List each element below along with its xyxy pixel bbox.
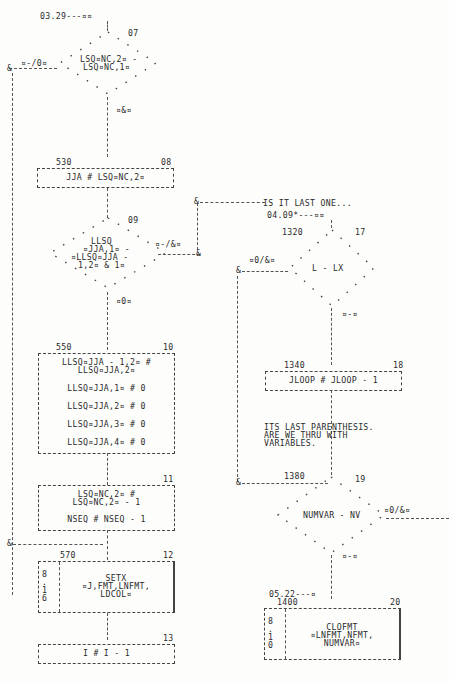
subroutine-box-12: 8 . 1 6 SETX ¤J,FMT,LNFMT, LDCOL¤ xyxy=(38,561,175,613)
node-number: 07 xyxy=(128,29,138,38)
process-line: LSQ¤NC,2¤ - 1 xyxy=(39,498,174,507)
decision-09: 09 LLSQ ¤JJA,1¤ - ¤LLSQ¤JJA - 1,2¤ & 1¤ xyxy=(48,216,168,290)
node-number: 17 xyxy=(355,228,365,237)
flow-line xyxy=(107,453,108,485)
decision-line: 1,2¤ & 1¤ xyxy=(78,261,125,270)
process-line: LLSQ¤JJA,4¤ # 0 xyxy=(39,438,174,447)
entry-connector-0409: 04.09*---¤¤ xyxy=(267,211,325,220)
branch-label: ¤-/&¤ xyxy=(155,240,181,249)
node-label: 1340 xyxy=(284,361,305,370)
node-label: 570 xyxy=(60,551,76,560)
flow-line xyxy=(13,544,103,545)
process-box-10: LLSQ¤JJA - 1,2¤ # LLSQ¤JJA,2¤ LLSQ¤JJA,1… xyxy=(38,353,175,454)
connector-amp: & xyxy=(236,266,241,275)
branch-label: ¤0¤ xyxy=(116,297,132,306)
node-number: 11 xyxy=(163,475,173,484)
branch-label: ¤-¤ xyxy=(342,552,358,561)
process-line: JJA # LSQ¤NC,2¤ xyxy=(38,173,173,182)
flow-line xyxy=(9,68,57,69)
process-line: LLSQ¤JJA,1¤ # 0 xyxy=(39,384,174,393)
flow-line xyxy=(237,276,238,482)
entry-connector-0329: 03.29---¤¤ xyxy=(40,12,92,21)
process-box-11: LSQ¤NC,2¤ # LSQ¤NC,2¤ - 1 NSEQ # NSEQ - … xyxy=(38,485,175,531)
node-number: 18 xyxy=(393,361,403,370)
process-box-18: JLOOP # JLOOP - 1 xyxy=(265,371,402,391)
comment-is-it-last-one: IS IT LAST ONE... xyxy=(263,199,352,208)
decision-line: L - LX xyxy=(312,264,343,273)
subroutine-box-20: 8 . 1 0 CLOFMT ¤LNFMT,NFMT, NUMVAR¤ xyxy=(264,608,401,660)
comment-last-parenthesis: VARIABLES. xyxy=(264,439,316,448)
side-ref: 0 xyxy=(268,641,273,650)
process-box-13: I # I - 1 xyxy=(38,644,175,664)
flow-line xyxy=(242,271,288,272)
decision-line: LSQ¤NC,1¤ xyxy=(83,63,130,72)
connector-amp: & xyxy=(236,478,241,487)
flow-line xyxy=(197,203,198,250)
branch-label: ¤0/&¤ xyxy=(384,506,410,515)
connector-amp: & xyxy=(196,249,201,258)
flow-line xyxy=(107,97,108,157)
process-line: LLSQ¤JJA,3¤ # 0 xyxy=(39,420,174,429)
flow-line xyxy=(107,188,108,218)
decision-line: NUMVAR - NV xyxy=(303,511,361,520)
decision-17: 17 L - LX xyxy=(288,228,378,308)
process-box-08: JJA # LSQ¤NC,2¤ xyxy=(37,168,174,188)
flow-line xyxy=(386,518,449,519)
branch-label: ¤-/0¤ xyxy=(21,59,47,68)
node-number: 12 xyxy=(163,551,173,560)
branch-label: ¤-¤ xyxy=(342,310,358,319)
node-label: 550 xyxy=(56,343,72,352)
process-line: LDCOL¤ xyxy=(59,590,173,599)
side-ref: 6 xyxy=(42,594,47,603)
process-line: NUMVAR¤ xyxy=(285,639,399,648)
node-number: 13 xyxy=(163,634,173,643)
node-number: 09 xyxy=(128,216,138,225)
flow-line xyxy=(107,530,108,560)
process-line: NSEQ # NSEQ - 1 xyxy=(39,515,174,524)
flow-line xyxy=(107,292,108,350)
node-number: 20 xyxy=(390,598,400,607)
decision-19: 19 NUMVAR - NV xyxy=(278,475,386,555)
process-line: LLSQ¤JJA,2¤ # 0 xyxy=(39,402,174,411)
node-label: 530 xyxy=(56,158,72,167)
flow-line xyxy=(200,202,265,203)
connector-amp: & xyxy=(7,64,12,73)
flow-line xyxy=(331,308,332,365)
process-line: LLSQ¤JJA,2¤ xyxy=(39,366,174,375)
node-number: 08 xyxy=(161,158,171,167)
flow-line xyxy=(158,254,200,255)
branch-label: ¤&¤ xyxy=(116,106,132,115)
flow-line xyxy=(331,220,332,228)
process-line: I # I - 1 xyxy=(39,649,174,658)
decision-07: 07 LSQ¤NC,2¤ - LSQ¤NC,1¤ xyxy=(58,30,158,96)
node-label: 1400 xyxy=(277,598,298,607)
node-number: 19 xyxy=(355,475,365,484)
branch-label: ¤0/&¤ xyxy=(249,256,275,265)
flow-line xyxy=(331,555,332,599)
connector-amp: & xyxy=(194,197,199,206)
connector-amp: & xyxy=(7,539,12,548)
flow-line xyxy=(107,613,108,640)
process-line: JLOOP # JLOOP - 1 xyxy=(266,376,401,385)
node-number: 10 xyxy=(163,343,173,352)
flow-line xyxy=(12,73,13,595)
